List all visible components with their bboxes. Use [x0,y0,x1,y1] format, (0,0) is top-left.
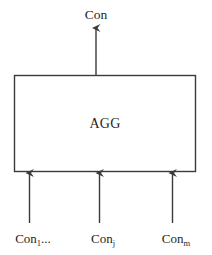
aggregation-diagram: Con AGG Con1... Conj Conm [0,0,212,255]
output-label: Con [0,8,192,22]
input-label-1-sub: 1 [37,238,41,248]
input-label-3-base: Con [162,231,184,246]
input-label-1: Con1... [4,232,62,245]
input-label-1-suffix: ... [41,231,51,246]
input-label-3: Conm [148,232,204,245]
input-label-2-base: Con [91,231,113,246]
input-label-3-sub: m [184,238,191,248]
agg-block-label: AGG [14,117,196,131]
input-label-2: Conj [76,232,130,245]
input-label-1-base: Con [15,231,37,246]
input-label-2-sub: j [113,238,115,248]
